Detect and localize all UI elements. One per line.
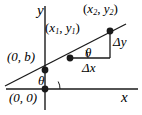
delta-x-label: Δx	[82, 61, 95, 74]
point-2-close-paren: )	[113, 1, 117, 16]
y-axis-label: y	[37, 3, 44, 18]
x-axis-label: x	[121, 90, 128, 105]
y-intercept-label: (0, b)	[7, 50, 35, 63]
theta-origin-label: θ	[38, 74, 44, 87]
origin-label: (0, 0)	[9, 91, 37, 104]
slope-diagram-figure: y x (x2, y2) (x1, y1) (0, b) (0, 0) Δy Δ…	[0, 0, 142, 115]
theta-triangle-label: θ	[85, 46, 91, 59]
theta-origin-arc	[58, 82, 60, 90]
point-1-label: (x1, y1)	[45, 21, 80, 36]
point-2-label: (x2, y2)	[83, 2, 118, 17]
point-1-marker	[67, 55, 74, 62]
delta-y-label: Δy	[113, 35, 126, 48]
point-1-close-paren: )	[75, 20, 79, 35]
